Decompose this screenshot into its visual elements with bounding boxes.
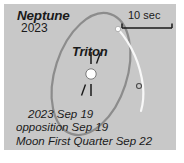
orbit-highlight-arc	[118, 29, 143, 111]
triton-current-position-marker	[115, 26, 120, 31]
south-slash-icon	[82, 85, 86, 96]
notes-block: 2023 Sep 19 opposition Sep 19 Moon First…	[16, 108, 152, 148]
triton-open-position-marker	[137, 84, 142, 89]
note-line-moon-phase: Moon First Quarter Sep 22	[16, 135, 152, 148]
planet-year-label: 2023	[21, 22, 48, 34]
neptune-triton-figure: Neptune 2023 Triton 10 sec 2023 Sep 19 o…	[0, 0, 184, 163]
chart-panel: Neptune 2023 Triton 10 sec 2023 Sep 19 o…	[4, 4, 176, 150]
moon-label: Triton	[72, 45, 107, 58]
note-line-date: 2023 Sep 19	[16, 108, 152, 121]
neptune-disk-marker	[86, 69, 96, 79]
note-line-opposition: opposition Sep 19	[16, 121, 152, 134]
scale-bar-label: 10 sec	[128, 10, 160, 21]
